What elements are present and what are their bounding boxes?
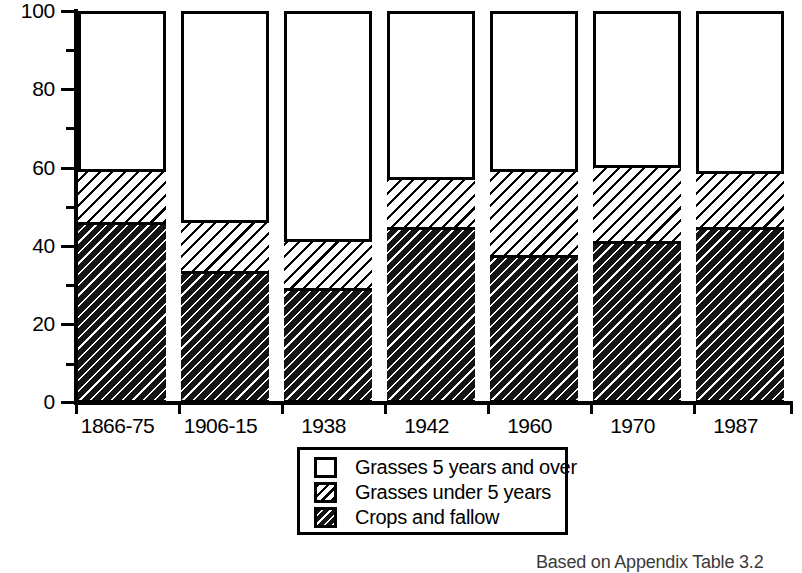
y-axis-label-20: 20 (0, 313, 55, 334)
x-axis-label-1987: 1987 (684, 414, 787, 438)
y-tick-60 (61, 167, 74, 170)
plot-area (78, 11, 787, 403)
segment-crops-and-fallow (696, 227, 784, 400)
y-tick-90 (66, 49, 74, 52)
white-square-icon (314, 457, 337, 478)
x-axis-label-1938: 1938 (272, 414, 375, 438)
y-tick-0 (61, 401, 74, 404)
segment-crops-and-fallow (490, 255, 578, 400)
bar-1866-75[interactable] (78, 11, 166, 403)
y-tick-10 (66, 363, 74, 366)
y-tick-70 (66, 127, 74, 130)
y-axis-label-60: 60 (0, 157, 55, 178)
bar-1942[interactable] (387, 11, 475, 403)
y-axis-label-40: 40 (0, 235, 55, 256)
x-axis-label-1970: 1970 (581, 414, 684, 438)
bar-1987[interactable] (696, 11, 784, 403)
bar-1960[interactable] (490, 11, 578, 403)
y-axis-label-80: 80 (0, 78, 55, 99)
legend-item-crops-and-fallow[interactable]: Crops and fallow (314, 505, 499, 529)
y-tick-100 (61, 10, 74, 13)
bar-1970[interactable] (593, 11, 681, 403)
dark-hatch-square-icon (314, 507, 337, 528)
chart-legend: Grasses 5 years and over Grasses under 5… (297, 447, 568, 535)
legend-label: Grasses under 5 years (355, 481, 551, 504)
x-axis-label-1960: 1960 (478, 414, 581, 438)
legend-item-grasses-5-years-and-over[interactable]: Grasses 5 years and over (314, 455, 577, 479)
x-axis-label-1942: 1942 (375, 414, 478, 438)
legend-label: Grasses 5 years and over (355, 456, 577, 479)
x-tick-7 (790, 401, 793, 414)
segment-crops-and-fallow (78, 222, 166, 400)
segment-crops-and-fallow (593, 241, 681, 400)
y-axis-label-0: 0 (0, 391, 55, 412)
y-tick-20 (61, 323, 74, 326)
y-axis-label-100: 100 (0, 0, 55, 21)
y-tick-30 (66, 284, 74, 287)
light-hatch-square-icon (314, 482, 337, 503)
segment-crops-and-fallow (181, 271, 269, 400)
legend-label: Crops and fallow (355, 506, 499, 529)
bar-1938[interactable] (284, 11, 372, 403)
bar-1906-15[interactable] (181, 11, 269, 403)
source-note: Based on Appendix Table 3.2 (536, 552, 763, 573)
segment-crops-and-fallow (284, 288, 372, 400)
y-tick-50 (66, 206, 74, 209)
segment-crops-and-fallow (387, 227, 475, 400)
y-tick-80 (61, 88, 74, 91)
legend-item-grasses-under-5-years[interactable]: Grasses under 5 years (314, 480, 551, 504)
x-axis-label-1906-15: 1906-15 (169, 414, 272, 438)
x-axis-label-1866-75: 1866-75 (66, 414, 169, 438)
y-tick-40 (61, 245, 74, 248)
